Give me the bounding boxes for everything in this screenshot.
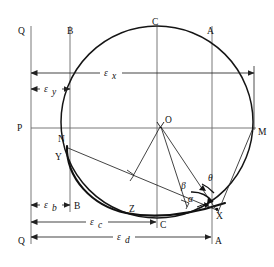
dim-label-eps-x-sub: x [111, 71, 117, 81]
point-label-M: M [258, 127, 267, 137]
right-angle-marks [127, 170, 189, 209]
dim-label-eps-y-symbol: ε [44, 84, 48, 94]
dim-label-eps-d: ε d [113, 229, 135, 245]
point-label-A-bottom: A [215, 236, 222, 246]
dim-label-eps-d-sub: d [125, 235, 130, 245]
diagram-canvas: ε x ε y ε b ε c ε d Q B C A P M N [0, 0, 274, 267]
dim-label-eps-x: ε x [100, 65, 122, 81]
angle-label-alpha: α [188, 194, 194, 204]
dim-label-eps-x-symbol: ε [104, 68, 108, 78]
point-label-B-top: B [67, 26, 73, 36]
point-label-C-top: C [152, 17, 158, 27]
point-label-Q-top: Q [18, 26, 25, 36]
technical-diagram: ε x ε y ε b ε c ε d Q B C A P M N [0, 0, 274, 267]
point-label-C-bottom: C [160, 220, 166, 230]
point-label-N: N [58, 134, 65, 144]
dim-label-eps-b-sub: b [52, 203, 57, 213]
angle-label-theta: θ [208, 173, 213, 183]
chord-O-perp1 [133, 127, 160, 176]
point-label-A-top: A [207, 26, 214, 36]
dim-label-eps-d-symbol: ε [117, 232, 121, 242]
point-label-Q-bottom: Q [18, 236, 25, 246]
dim-label-eps-b: ε b [40, 197, 62, 213]
tick-O-right [160, 122, 164, 128]
dim-label-eps-y: ε y [40, 81, 62, 97]
dim-label-eps-b-symbol: ε [44, 200, 48, 210]
point-label-Z: Z [129, 204, 135, 214]
intersection-ticks [157, 122, 164, 128]
point-label-Y: Y [55, 152, 62, 162]
point-label-P: P [17, 123, 22, 133]
chord-MX [218, 128, 253, 212]
angle-label-beta: β [180, 181, 186, 191]
dim-label-eps-y-sub: y [51, 87, 57, 97]
dim-label-eps-c: ε c [86, 214, 108, 230]
point-label-O: O [165, 115, 172, 125]
dim-label-eps-c-symbol: ε [90, 217, 94, 227]
chord-O-perp2 [161, 127, 187, 207]
point-label-X: X [216, 211, 223, 221]
point-label-B-bottom: B [74, 201, 80, 211]
angle-vertex-x [216, 208, 219, 211]
